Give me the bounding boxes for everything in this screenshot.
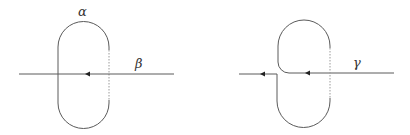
label-gamma: γ: [353, 55, 361, 70]
diagram-canvas: α β γ: [0, 0, 410, 135]
path-gamma-upper-loop: [278, 20, 394, 73]
label-beta: β: [134, 56, 143, 71]
arrow-left-icon: [260, 72, 265, 77]
right-panel: γ: [239, 20, 394, 128]
label-alpha: α: [78, 4, 87, 19]
arrow-left-icon: [305, 71, 310, 76]
loop-alpha: [58, 22, 109, 129]
path-gamma-lower-loop: [239, 74, 330, 128]
arrow-left-icon: [85, 72, 90, 77]
left-panel: α β: [19, 4, 174, 129]
